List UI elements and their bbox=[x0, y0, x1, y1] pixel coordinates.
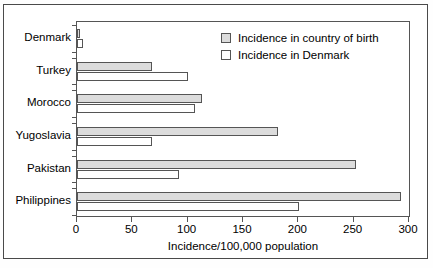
y-tick bbox=[72, 52, 77, 53]
legend-label: Incidence in Denmark bbox=[238, 49, 349, 61]
y-axis-label-turkey: Turkey bbox=[0, 64, 71, 76]
y-tick bbox=[72, 84, 77, 85]
x-axis-title: Incidence/100,000 population bbox=[76, 240, 410, 252]
y-tick bbox=[72, 215, 77, 216]
legend-swatch-icon bbox=[221, 50, 231, 60]
x-tick-label: 300 bbox=[388, 223, 428, 235]
legend-item-2: Incidence in Denmark bbox=[221, 46, 379, 63]
bar-yugoslavia-birth bbox=[77, 127, 278, 136]
y-tick bbox=[72, 58, 77, 59]
bar-denmark-denmark bbox=[77, 39, 83, 48]
y-tick bbox=[72, 117, 77, 118]
x-tick-label: 150 bbox=[222, 223, 262, 235]
bar-denmark-birth bbox=[77, 29, 80, 38]
bar-pakistan-denmark bbox=[77, 170, 179, 179]
bar-pakistan-birth bbox=[77, 160, 356, 169]
x-tick bbox=[297, 217, 298, 222]
y-tick bbox=[72, 25, 77, 26]
x-tick-label: 200 bbox=[277, 223, 317, 235]
bar-turkey-denmark bbox=[77, 72, 188, 81]
figure-caption bbox=[4, 260, 429, 268]
bar-turkey-birth bbox=[77, 62, 152, 71]
y-tick bbox=[72, 150, 77, 151]
y-tick bbox=[72, 123, 77, 124]
bar-philippines-denmark bbox=[77, 202, 299, 211]
chart-figure: DenmarkTurkeyMoroccoYugoslaviaPakistanPh… bbox=[0, 0, 433, 268]
x-axis-tick-labels: 050100150200250300 bbox=[0, 223, 433, 239]
x-tick-label: 100 bbox=[167, 223, 207, 235]
bar-morocco-denmark bbox=[77, 104, 195, 113]
y-axis-label-yugoslavia: Yugoslavia bbox=[0, 129, 71, 141]
y-tick bbox=[72, 90, 77, 91]
y-tick bbox=[72, 156, 77, 157]
x-tick bbox=[187, 217, 188, 222]
x-tick-label: 250 bbox=[333, 223, 373, 235]
x-tick bbox=[353, 217, 354, 222]
legend-swatch-icon bbox=[221, 33, 231, 43]
y-axis-label-pakistan: Pakistan bbox=[0, 162, 71, 174]
y-tick bbox=[72, 188, 77, 189]
x-tick-label: 50 bbox=[111, 223, 151, 235]
bar-philippines-birth bbox=[77, 192, 401, 201]
x-tick bbox=[131, 217, 132, 222]
x-tick-label: 0 bbox=[56, 223, 96, 235]
y-axis-label-morocco: Morocco bbox=[0, 96, 71, 108]
y-axis-label-denmark: Denmark bbox=[0, 31, 71, 43]
bar-yugoslavia-denmark bbox=[77, 137, 152, 146]
y-axis-label-philippines: Philippines bbox=[0, 194, 71, 206]
legend-label: Incidence in country of birth bbox=[238, 32, 379, 44]
legend-item-1: Incidence in country of birth bbox=[221, 29, 379, 46]
x-tick bbox=[76, 217, 77, 222]
y-tick bbox=[72, 182, 77, 183]
x-tick bbox=[242, 217, 243, 222]
bar-morocco-birth bbox=[77, 94, 202, 103]
chart-legend: Incidence in country of birthIncidence i… bbox=[221, 29, 379, 63]
x-tick bbox=[408, 217, 409, 222]
